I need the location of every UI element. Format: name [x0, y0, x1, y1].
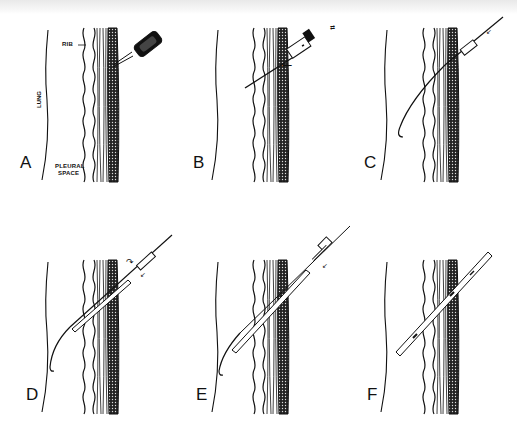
- panel-label-d: D: [26, 385, 38, 405]
- arrow-icon: ⟵: [282, 62, 292, 69]
- arrow-icon: ↙: [140, 271, 146, 278]
- panel-b: ⇄ ⟵: [212, 25, 335, 182]
- arrow-icon: ↙: [322, 262, 328, 269]
- panel-c: ↙: [381, 17, 503, 182]
- panel-d: ↷ ↙: [42, 235, 172, 414]
- panel-f: [381, 252, 492, 414]
- panel-label-e: E: [196, 385, 207, 405]
- catheter: [232, 270, 310, 353]
- panel-label-c: C: [364, 153, 376, 173]
- panel-e: ↙: [212, 226, 350, 414]
- space-label-text: SPACE: [58, 170, 79, 176]
- dilator: [72, 280, 131, 332]
- lung-surface-line: [42, 30, 48, 180]
- arrow-icon: ⇄: [330, 25, 335, 31]
- panel-label-a: A: [20, 153, 31, 173]
- pleural-label: PLEURAL: [55, 163, 85, 169]
- panel-a: [42, 28, 163, 182]
- rib-label: RIB: [62, 41, 73, 47]
- panel-label-b: B: [193, 153, 204, 173]
- arrow-icon: ↙: [486, 28, 492, 35]
- panel-label-f: F: [367, 385, 377, 405]
- needle-hub: [460, 40, 477, 55]
- lung-label: LUNG: [36, 91, 42, 108]
- twist-arrow-icon: ↷: [126, 257, 134, 267]
- diagram-canvas: ⇄ ⟵ ↙ ↷ ↙ ↙: [0, 0, 517, 424]
